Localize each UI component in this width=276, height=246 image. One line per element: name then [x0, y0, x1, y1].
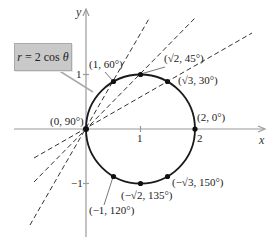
label-negsqrt2-135: (−√2, 135°)	[121, 189, 173, 202]
label-2-0: (2, 0°)	[197, 111, 226, 124]
x-axis-label: x	[258, 133, 265, 147]
label-0-90: (0, 90°)	[50, 115, 84, 128]
y-tick-label-neg1: −1	[71, 177, 83, 189]
equation-label-box: r = 2 cos θ	[14, 43, 72, 71]
label-sqrt2-45: (√2, 45°)	[164, 52, 204, 65]
equation-theta: θ	[63, 50, 69, 65]
y-axis-label: y	[75, 5, 82, 19]
point-sqrt3-30	[165, 79, 170, 84]
point-sqrt2-45	[138, 72, 143, 77]
point-2-0	[192, 126, 197, 131]
label-sqrt3-30: (√3, 30°)	[178, 74, 218, 87]
leader-neg1-120	[104, 177, 113, 205]
x-tick-label-1: 1	[137, 132, 143, 144]
label-negsqrt3-150: (−√3, 150°)	[172, 176, 224, 189]
polar-graph: x y 1 2 1 −1 (0, 90°) (1, 60°) (√2, 45°)…	[0, 0, 276, 246]
point-neg1-120	[111, 174, 116, 179]
point-negsqrt3-150	[165, 174, 170, 179]
point-negsqrt2-135	[138, 181, 143, 186]
equation-body: = 2 cos	[22, 50, 63, 65]
point-0-90	[83, 126, 89, 132]
y-tick-label-1: 1	[76, 68, 82, 80]
x-tick-label-2: 2	[197, 132, 203, 144]
point-1-60	[111, 79, 116, 84]
label-1-60: (1, 60°)	[89, 58, 123, 71]
label-neg1-120: (−1, 120°)	[89, 204, 135, 217]
ray-45	[34, 17, 196, 182]
